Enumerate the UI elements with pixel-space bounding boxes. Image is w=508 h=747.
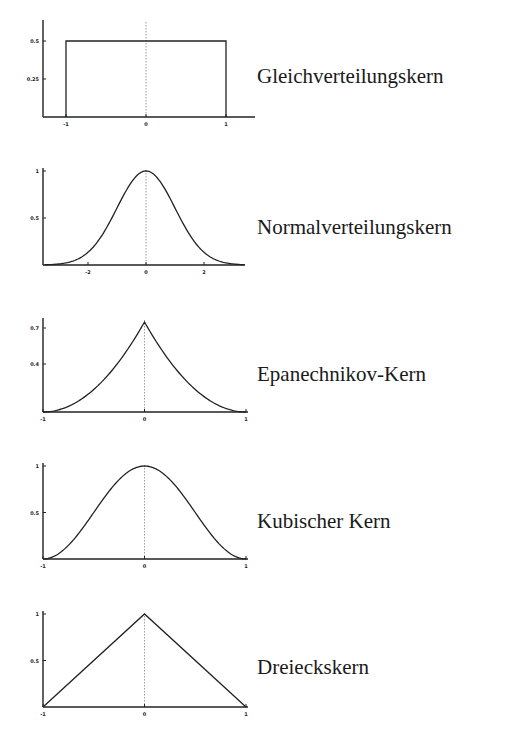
gaussian-x-tick-label: 2 [202, 269, 206, 275]
label-uniform-kernel: Gleichverteilungskern [257, 66, 444, 87]
label-gaussian-kernel: Normalverteilungskern [257, 217, 452, 238]
gaussian-x-tick-label: -2 [85, 269, 91, 275]
triangular-y-tick-label: 0.5 [30, 658, 39, 664]
label-triangular-kernel: Dreieckskern [257, 657, 369, 678]
cubic-kernel-curve [43, 466, 246, 559]
epanechnikov-y-tick-label: 0.7 [30, 325, 39, 331]
epanechnikov-x-tick-label: 1 [244, 416, 248, 422]
cubic-x-tick-label: -1 [40, 563, 46, 569]
gaussian-y-tick-label: 1 [36, 168, 40, 174]
uniform-x-tick-label: 1 [224, 121, 228, 127]
triangular-y-tick-label: 1 [36, 611, 40, 617]
triangular-x-tick-label: 1 [244, 711, 248, 717]
cubic-y-tick-label: 0.5 [30, 510, 39, 516]
uniform-x-tick-label: 0 [144, 121, 148, 127]
gaussian-x-tick-label: 0 [144, 269, 148, 275]
triangular-x-tick-label: -1 [40, 711, 46, 717]
cubic-y-tick-label: 1 [36, 463, 40, 469]
kernel-figure: 0.250.5-1010.51-2020.40.7-1010.51-1010.5… [0, 0, 508, 747]
triangular-x-tick-label: 0 [143, 711, 147, 717]
epanechnikov-y-tick-label: 0.4 [30, 361, 39, 367]
cubic-x-tick-label: 0 [143, 563, 147, 569]
triangular-kernel-curve [43, 614, 246, 707]
epanechnikov-x-tick-label: -1 [40, 416, 46, 422]
uniform-x-tick-label: -1 [63, 121, 69, 127]
uniform-y-tick-label: 0.25 [27, 76, 40, 82]
uniform-y-tick-label: 0.5 [30, 38, 39, 44]
label-epanechnikov-kernel: Epanechnikov-Kern [257, 364, 426, 385]
cubic-x-tick-label: 1 [244, 563, 248, 569]
label-cubic-kernel: Kubischer Kern [257, 511, 391, 532]
epanechnikov-x-tick-label: 0 [143, 416, 147, 422]
gaussian-y-tick-label: 0.5 [30, 215, 39, 221]
gaussian-kernel-curve [45, 171, 245, 265]
